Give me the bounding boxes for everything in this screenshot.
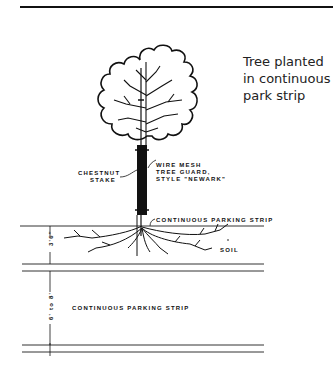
stake-label: STAKE	[90, 177, 116, 183]
dimension-soil-label: 3'6"	[48, 230, 54, 246]
guard-label: STYLE "NEWARK"	[156, 176, 226, 182]
tree-crown-icon	[98, 45, 197, 139]
parking-strip-label: CONTINUOUS PARKING STRIP	[72, 305, 189, 311]
guard-label: TREE GUARD,	[156, 169, 211, 175]
parking-strip-label: CONTINUOUS PARKING STRIP	[156, 217, 273, 223]
stake-label: CHESTNUT	[78, 170, 120, 176]
soil-label: SOIL	[220, 247, 239, 253]
dimension-strip-label: 6' to 8'	[48, 292, 54, 320]
tree-planting-diagram: CHESTNUT STAKE WIRE MESH TREE GUARD, STY…	[0, 0, 333, 376]
guard-label: WIRE MESH	[156, 162, 201, 168]
tree-guard	[137, 145, 147, 215]
